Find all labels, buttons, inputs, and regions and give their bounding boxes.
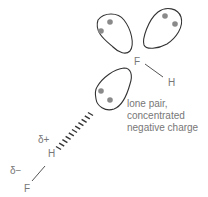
atom-f-top: F	[134, 56, 140, 67]
partial-charge-positive: δ+	[38, 134, 50, 145]
partial-charge-negative: δ−	[10, 165, 22, 176]
electron-dot	[107, 97, 113, 103]
lone-pair-annotation: lone pair, concentrated negative charge	[127, 98, 199, 133]
annotation-line-2: concentrated	[127, 110, 185, 121]
electron-dot	[172, 21, 178, 27]
lone-pair-lobe-bottom	[95, 68, 131, 110]
covalent-bond-top	[145, 64, 163, 77]
annotation-line-1: lone pair,	[127, 98, 168, 109]
atom-h-top: H	[168, 77, 175, 88]
lone-pair-lobe-top-left	[97, 14, 132, 53]
hydrogen-bond-dashes	[56, 113, 93, 150]
atom-h-bottom: H	[48, 148, 55, 159]
electron-dot	[98, 28, 104, 34]
electron-dot	[98, 88, 104, 94]
hydrogen-bond-diagram: F H δ+ H δ− F lone pair, concentrated ne…	[0, 0, 208, 197]
covalent-bond-bottom	[32, 166, 45, 181]
electron-dot	[107, 19, 113, 25]
atom-f-bottom: F	[24, 183, 30, 194]
lone-pair-lobe-top-right	[144, 9, 182, 49]
electron-dot	[162, 13, 168, 19]
annotation-line-3: negative charge	[127, 122, 199, 133]
